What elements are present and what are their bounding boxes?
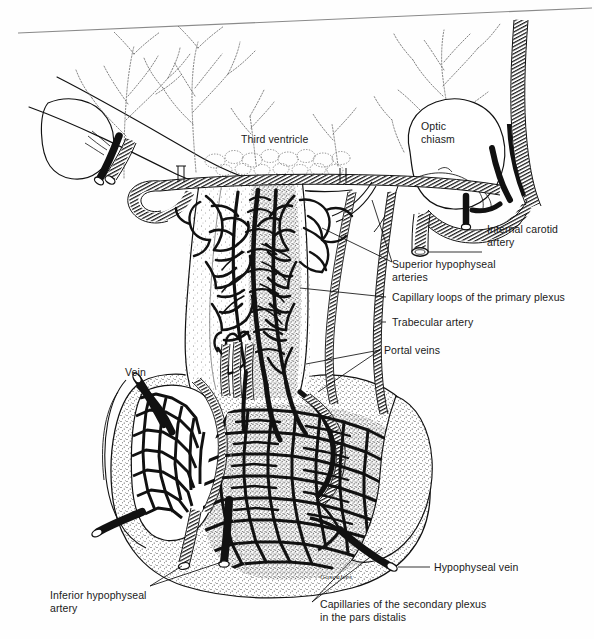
cut-artery-right <box>461 196 470 230</box>
hypophyseal-portal-system-drawing <box>0 0 594 639</box>
third-ventricle-floor-texture <box>205 150 350 176</box>
cut-arteries-upper-left <box>85 131 136 186</box>
trabecular-artery <box>373 192 396 414</box>
anatomical-figure: Third ventricle Optic chiasm Internal ca… <box>0 0 594 639</box>
artist-signature: Gonçalves <box>320 573 352 581</box>
page-border-line <box>18 8 592 33</box>
